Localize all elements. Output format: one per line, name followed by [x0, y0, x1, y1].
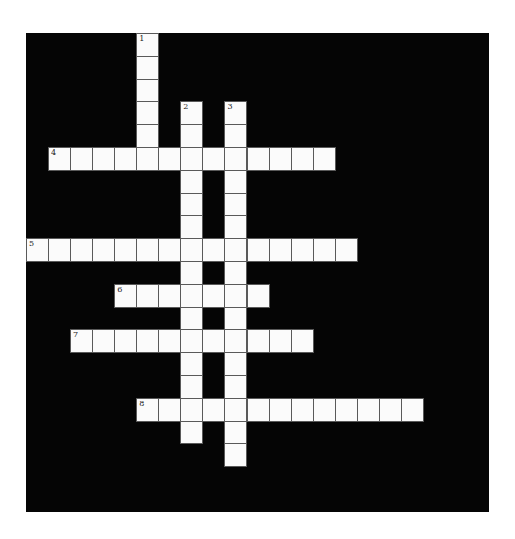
crossword-cell[interactable]: 7 [70, 329, 93, 353]
crossword-cell[interactable] [224, 329, 247, 353]
crossword-cell[interactable]: 2 [180, 101, 203, 125]
crossword-cell[interactable] [92, 147, 115, 171]
crossword-cell[interactable] [180, 284, 203, 308]
crossword-cell[interactable] [269, 398, 292, 422]
crossword-cell[interactable] [247, 398, 270, 422]
crossword-cell[interactable] [224, 170, 247, 194]
crossword-cell[interactable] [291, 329, 314, 353]
crossword-cell[interactable] [180, 352, 203, 376]
crossword-cell[interactable] [202, 147, 225, 171]
crossword-cell[interactable] [202, 398, 225, 422]
crossword-cell[interactable]: 6 [114, 284, 137, 308]
crossword-cell[interactable] [357, 398, 380, 422]
crossword-cell[interactable] [224, 375, 247, 399]
crossword-cell[interactable] [291, 238, 314, 262]
crossword-cell[interactable] [48, 238, 71, 262]
crossword-cell[interactable] [136, 147, 159, 171]
crossword-cell[interactable] [114, 238, 137, 262]
crossword-cell[interactable] [136, 124, 159, 148]
crossword-cell[interactable] [224, 215, 247, 239]
crossword-cell[interactable] [224, 284, 247, 308]
crossword-cell[interactable] [180, 421, 203, 445]
crossword-cell[interactable] [92, 329, 115, 353]
crossword-cell[interactable] [136, 79, 159, 103]
crossword-cell[interactable] [313, 238, 336, 262]
crossword-cell[interactable] [136, 101, 159, 125]
crossword-cell[interactable] [247, 329, 270, 353]
crossword-cell[interactable] [224, 398, 247, 422]
crossword-cell[interactable] [136, 329, 159, 353]
crossword-cell[interactable] [180, 375, 203, 399]
crossword-cell[interactable] [291, 398, 314, 422]
crossword-cell[interactable] [379, 398, 402, 422]
crossword-cell[interactable] [335, 398, 358, 422]
crossword-cell[interactable] [136, 56, 159, 80]
crossword-cell[interactable] [247, 284, 270, 308]
crossword-cell[interactable] [224, 261, 247, 285]
crossword-cell[interactable] [180, 215, 203, 239]
crossword-cell[interactable] [224, 124, 247, 148]
crossword-cell[interactable] [269, 238, 292, 262]
crossword-board: 12345678 [26, 33, 489, 512]
crossword-cell[interactable] [180, 398, 203, 422]
crossword-cell[interactable] [202, 238, 225, 262]
crossword-cell[interactable] [224, 147, 247, 171]
crossword-cell[interactable] [92, 238, 115, 262]
crossword-cell[interactable]: 4 [48, 147, 71, 171]
crossword-cell[interactable] [136, 284, 159, 308]
crossword-cell[interactable] [224, 193, 247, 217]
crossword-cell[interactable] [247, 147, 270, 171]
clue-number: 8 [139, 399, 144, 409]
clue-number: 5 [29, 239, 34, 249]
clue-number: 1 [139, 34, 144, 44]
crossword-cell[interactable] [291, 147, 314, 171]
clue-number: 6 [117, 285, 122, 295]
crossword-cell[interactable] [224, 421, 247, 445]
crossword-cell[interactable] [224, 238, 247, 262]
crossword-cell[interactable] [401, 398, 424, 422]
crossword-cell[interactable] [70, 147, 93, 171]
clue-number: 2 [183, 102, 188, 112]
crossword-cell[interactable] [269, 147, 292, 171]
crossword-cell[interactable] [180, 307, 203, 331]
crossword-cell[interactable] [158, 329, 181, 353]
crossword-cell[interactable] [180, 147, 203, 171]
crossword-cell[interactable] [180, 261, 203, 285]
crossword-cell[interactable] [158, 238, 181, 262]
crossword-cell[interactable] [158, 147, 181, 171]
crossword-cell[interactable] [180, 238, 203, 262]
crossword-cell[interactable] [335, 238, 358, 262]
crossword-cell[interactable] [70, 238, 93, 262]
crossword-cell[interactable]: 1 [136, 33, 159, 57]
crossword-cell[interactable] [158, 284, 181, 308]
crossword-cell[interactable] [224, 443, 247, 467]
crossword-cell[interactable] [158, 398, 181, 422]
clue-number: 3 [227, 102, 232, 112]
crossword-cell[interactable] [136, 238, 159, 262]
crossword-cell[interactable] [114, 329, 137, 353]
crossword-cell[interactable] [114, 147, 137, 171]
crossword-cell[interactable] [180, 329, 203, 353]
crossword-cell[interactable] [247, 238, 270, 262]
crossword-cell[interactable] [202, 329, 225, 353]
crossword-cell[interactable]: 8 [136, 398, 159, 422]
crossword-cell[interactable] [180, 193, 203, 217]
crossword-cell[interactable] [313, 147, 336, 171]
crossword-cell[interactable]: 3 [224, 101, 247, 125]
crossword-cell[interactable] [313, 398, 336, 422]
crossword-cell[interactable] [180, 170, 203, 194]
crossword-cell[interactable] [224, 352, 247, 376]
crossword-cell[interactable]: 5 [26, 238, 49, 262]
crossword-cell[interactable] [202, 284, 225, 308]
crossword-cell[interactable] [269, 329, 292, 353]
crossword-cell[interactable] [180, 124, 203, 148]
crossword-cell[interactable] [224, 307, 247, 331]
clue-number: 7 [73, 330, 78, 340]
clue-number: 4 [51, 148, 56, 158]
